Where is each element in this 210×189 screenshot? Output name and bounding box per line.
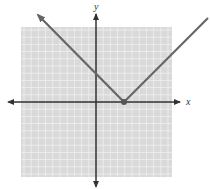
vertex-point (121, 99, 127, 105)
x-axis-label: x (185, 96, 191, 107)
y-axis-label: y (93, 1, 99, 12)
graph-canvas: x y (0, 0, 210, 189)
